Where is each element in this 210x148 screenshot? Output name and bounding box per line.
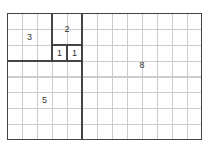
square-2: 2 <box>52 13 82 45</box>
squared-rectangle-figure: 3 2 1 1 5 8 <box>7 13 202 140</box>
square-2-label: 2 <box>53 24 81 33</box>
diagram-canvas: 3 2 1 1 5 8 <box>0 0 210 148</box>
square-1-left: 1 <box>52 45 67 61</box>
square-8-label: 8 <box>83 61 201 70</box>
square-3-label: 3 <box>8 32 51 41</box>
square-1-left-label: 1 <box>53 48 66 57</box>
square-1-right: 1 <box>67 45 82 61</box>
square-5-label: 5 <box>8 96 81 105</box>
square-3: 3 <box>7 13 52 61</box>
square-8: 8 <box>82 13 202 140</box>
square-1-right-label: 1 <box>68 48 81 57</box>
square-5: 5 <box>7 61 82 140</box>
